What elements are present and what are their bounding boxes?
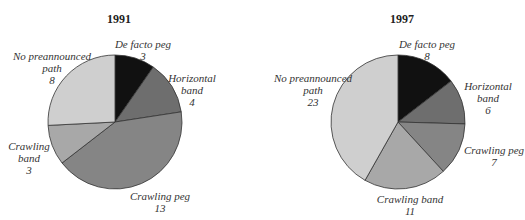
label-name-2: band bbox=[458, 92, 518, 104]
label-name: Crawling peg bbox=[120, 190, 200, 202]
label-nopath-1997: No preannounced path 23 bbox=[268, 72, 358, 108]
label-name: Crawling peg bbox=[463, 144, 525, 156]
label-name: Crawling bbox=[4, 140, 54, 152]
label-value: 3 bbox=[108, 50, 178, 62]
label-name-2: band bbox=[162, 84, 222, 96]
label-value: 13 bbox=[120, 202, 200, 214]
label-name-2: path bbox=[12, 62, 92, 74]
label-defacto-1991: De facto peg 3 bbox=[108, 38, 178, 62]
pie-charts bbox=[0, 0, 525, 220]
label-horizontal-1991: Horizontal band 4 bbox=[162, 72, 222, 108]
label-defacto-1997: De facto peg 8 bbox=[392, 38, 462, 62]
label-name: De facto peg bbox=[108, 38, 178, 50]
label-value: 23 bbox=[268, 96, 358, 108]
label-crawlingpeg-1991: Crawling peg 13 bbox=[120, 190, 200, 214]
label-name-2: band bbox=[4, 152, 54, 164]
chart-title-1997: 1997 bbox=[372, 12, 432, 27]
label-crawlingpeg-1997: Crawling peg 7 bbox=[463, 144, 525, 168]
label-name: No preannounced bbox=[12, 50, 92, 62]
label-value: 3 bbox=[4, 164, 54, 176]
chart-title-1991: 1991 bbox=[89, 12, 149, 27]
label-name: Horizontal bbox=[458, 80, 518, 92]
label-value: 11 bbox=[370, 205, 450, 217]
label-name: No preannounced bbox=[268, 72, 358, 84]
label-crawlingband-1991: Crawling band 3 bbox=[4, 140, 54, 176]
label-crawlingband-1997: Crawling band 11 bbox=[370, 193, 450, 217]
label-nopath-1991: No preannounced path 8 bbox=[12, 50, 92, 86]
label-value: 8 bbox=[12, 74, 92, 86]
label-value: 8 bbox=[392, 50, 462, 62]
label-value: 4 bbox=[162, 96, 222, 108]
label-name: De facto peg bbox=[392, 38, 462, 50]
label-name: Horizontal bbox=[162, 72, 222, 84]
label-value: 7 bbox=[463, 156, 525, 168]
label-name: Crawling band bbox=[370, 193, 450, 205]
label-value: 6 bbox=[458, 104, 518, 116]
label-horizontal-1997: Horizontal band 6 bbox=[458, 80, 518, 116]
label-name-2: path bbox=[268, 84, 358, 96]
